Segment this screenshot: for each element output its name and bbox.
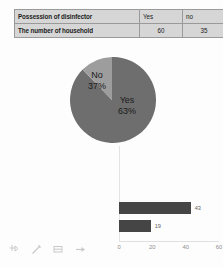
data-table: Possession of disinfector Yes no The num… xyxy=(14,9,223,38)
bar-rect xyxy=(119,202,191,214)
pie-label-yes-value: 63% xyxy=(110,106,144,117)
table-cell-no-count: 35 xyxy=(183,24,224,38)
table-header-row: Possession of disinfector Yes no xyxy=(15,10,224,24)
pie-label-no-value: 37% xyxy=(80,81,114,92)
bar-rect xyxy=(119,220,151,232)
bar-chart-x-tick: 20 xyxy=(144,244,160,250)
bar-value-label: 43 xyxy=(195,202,201,214)
table-cell-yes-count: 60 xyxy=(140,24,183,38)
table-cell-row-label: The number of household xyxy=(15,24,140,38)
bar-chart-x-tick: 60 xyxy=(211,244,223,250)
pie-label-yes-name: Yes xyxy=(110,95,144,106)
bar-chart: sterilizing and storing utensil 43 Steri… xyxy=(0,146,223,258)
pie-label-no: No 37% xyxy=(80,70,114,91)
pie-label-no-name: No xyxy=(80,70,114,81)
pointer-icon[interactable] xyxy=(8,243,21,256)
arrow-icon[interactable] xyxy=(74,243,87,256)
bar-value-label: 19 xyxy=(155,220,161,232)
annotation-toolbar[interactable] xyxy=(8,243,87,256)
table-row: The number of household 60 35 xyxy=(15,24,224,38)
eraser-icon[interactable] xyxy=(52,243,65,256)
pen-icon[interactable] xyxy=(30,243,43,256)
table-header-possession: Possession of disinfector xyxy=(15,10,140,24)
table-header-no: no xyxy=(183,10,224,24)
data-table-container: Possession of disinfector Yes no The num… xyxy=(14,9,208,38)
pie-label-yes: Yes 63% xyxy=(110,95,144,116)
report-page: Possession of disinfector Yes no The num… xyxy=(0,0,223,268)
bar-chart-x-tick: 40 xyxy=(178,244,194,250)
bar-chart-x-axis-line xyxy=(119,241,219,242)
bar-chart-x-tick: 0 xyxy=(111,244,127,250)
pie-chart: No 37% Yes 63% xyxy=(62,57,162,143)
table-header-yes: Yes xyxy=(140,10,183,24)
